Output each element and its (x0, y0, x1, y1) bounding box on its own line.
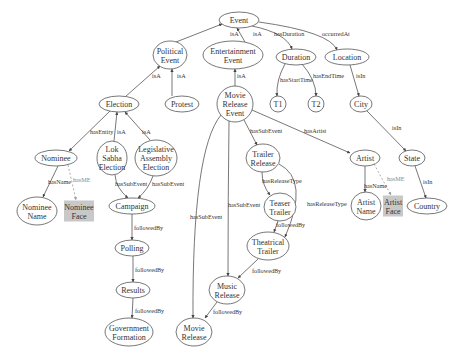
node-label: Government (109, 324, 150, 333)
node-label: Movie (225, 91, 246, 100)
node-label: Legislative (138, 145, 174, 154)
node-label: Nominee (22, 203, 52, 212)
node-label: Political (157, 47, 184, 56)
node-label: Sabha (102, 154, 122, 163)
edge-label: hasEndTime (313, 72, 344, 79)
edge-label: hasEntity (90, 128, 114, 135)
node-label: Entertainment (210, 47, 256, 56)
node-label: Location (333, 53, 361, 62)
node-label: Election (106, 100, 133, 109)
node-t1: T1 (270, 96, 286, 112)
node-movie-release: MovieRelease (176, 318, 212, 346)
edge-label: hasDuration (274, 30, 304, 37)
edge-label: isIn (423, 178, 432, 185)
edge-label: isA (177, 72, 186, 79)
node-results: Results (116, 282, 150, 298)
node-music-release: MusicRelease (209, 276, 245, 304)
node-label: Protest (171, 100, 194, 109)
node-movie-release-event: MovieReleaseEvent (217, 86, 253, 122)
edge-label: isIn (392, 124, 401, 131)
node-legislative-assembly-election: LegislativeAssemblyElection (135, 140, 177, 176)
node-artist-name: ArtistName (351, 192, 381, 220)
edge-label: hasSubEvent (152, 180, 185, 187)
node-label: Trailer (269, 208, 291, 217)
node-nominee: Nominee (35, 150, 77, 166)
edge-label: hasSubEvent (228, 201, 261, 208)
node-label: Face (71, 212, 87, 221)
node-location: Location (325, 49, 369, 65)
node-teaser-trailer: TeaserTrailer (264, 193, 296, 221)
node-city: City (350, 96, 372, 112)
node-label: City (354, 100, 368, 109)
node-artist-face: ArtistFace (383, 196, 403, 217)
node-label: Assembly (140, 154, 172, 163)
node-country: Country (407, 198, 447, 214)
node-label: Name (27, 212, 47, 221)
edge-label: hasME (387, 175, 405, 182)
node-t2: T2 (308, 96, 324, 112)
node-nominee-face: NomineeFace (64, 201, 94, 222)
edge-label: hasName (364, 182, 387, 189)
edge-label: isA (142, 128, 151, 135)
node-label: T2 (312, 100, 321, 109)
edge-legislative_assembly_election-election (125, 112, 150, 140)
node-lok-sabha-election: LokSabhaElection (97, 141, 127, 175)
node-label: Event (226, 109, 245, 118)
edge-political_event-event (176, 24, 222, 42)
node-label: Artist (384, 198, 403, 207)
node-label: Country (414, 202, 440, 211)
node-label: Music (217, 282, 237, 291)
node-label: Election (99, 163, 126, 172)
edge-label: hasME (73, 176, 91, 183)
node-label: Lok (106, 145, 119, 154)
edge-label: isIn (356, 72, 365, 79)
node-entertainment-event: EntertainmentEvent (203, 41, 263, 69)
node-label: Campaign (116, 202, 149, 211)
edge-results-government_formation (132, 298, 133, 318)
edge-label: hasReleaseType (307, 200, 347, 207)
node-label: Artist (357, 198, 376, 207)
node-label: Nominee (41, 154, 71, 163)
node-label: Artist (356, 154, 375, 163)
node-nominee-name: NomineeName (17, 197, 57, 225)
edge-label: occurredAt (322, 30, 350, 37)
node-protest: Protest (165, 96, 199, 112)
edge-label: hasSubEvent (250, 127, 283, 134)
edge-label: followedBy (135, 266, 165, 273)
edge-lok_sabha_election-election (114, 112, 117, 141)
edge-label: isA (230, 30, 239, 37)
edge-label: followedBy (134, 224, 164, 231)
node-election: Election (99, 96, 139, 112)
node-label: Release (251, 159, 276, 168)
node-duration: Duration (276, 49, 316, 65)
node-label: Event (224, 56, 243, 65)
edge-label: followedBy (213, 308, 243, 315)
edge-label: isA (152, 72, 161, 79)
node-label: Face (385, 207, 401, 216)
node-state: State (399, 150, 425, 166)
node-label: Name (356, 207, 376, 216)
node-label: Formation (112, 333, 145, 342)
edge-city-state (367, 111, 406, 151)
edge-movie_release_event-music_release (228, 121, 229, 276)
edge-label: followedBy (135, 307, 165, 314)
node-label: Release (223, 100, 248, 109)
node-theatrical-trailer: TheatricalTrailer (247, 232, 289, 260)
node-event: Event (219, 12, 259, 28)
node-label: Trailer (252, 150, 274, 159)
node-polling: Polling (115, 240, 149, 256)
ontology-diagram: EventPoliticalEventEntertainmentEventDur… (0, 0, 459, 358)
edge-election-political_event (125, 66, 160, 97)
edge-label: isA (237, 72, 246, 79)
edge-label: hasSubEvent (115, 180, 148, 187)
node-government-formation: GovernmentFormation (105, 318, 153, 346)
node-label: Event (161, 56, 180, 65)
node-label: Polling (120, 244, 143, 253)
node-label: Election (143, 163, 170, 172)
edge-label: isA (117, 128, 126, 135)
node-political-event: PoliticalEvent (153, 41, 187, 69)
edge-location-city (350, 65, 359, 96)
edge-label: followedBy (252, 267, 282, 274)
node-label: Nominee (64, 203, 94, 212)
node-label: Results (121, 286, 145, 295)
